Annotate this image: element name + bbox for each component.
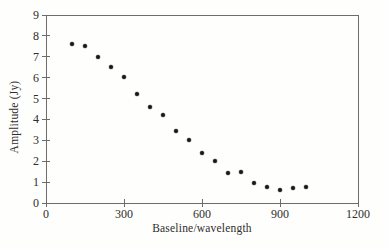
y-tick-mark [42,182,50,183]
x-tick-mark [202,199,203,207]
data-point [174,129,178,133]
visibility-amplitude-chart: Amplitude (Jy) Baseline/wavelength 01234… [0,0,388,248]
x-tick-label: 300 [104,207,144,221]
y-tick-label: 2 [15,154,39,168]
y-tick-label: 3 [15,133,39,147]
y-tick-label: 9 [15,8,39,22]
x-tick-mark [280,199,281,207]
y-tick-label: 6 [15,71,39,85]
y-tick-mark [42,161,50,162]
x-tick-mark [46,199,47,207]
y-tick-label: 8 [15,29,39,43]
y-tick-mark [42,56,50,57]
y-tick-label: 4 [15,112,39,126]
x-tick-label: 1200 [338,207,378,221]
data-point [148,105,152,109]
data-point [200,151,204,155]
x-tick-mark [358,199,359,207]
y-tick-mark [42,98,50,99]
data-point [239,170,243,174]
y-tick-label: 1 [15,175,39,189]
y-tick-mark [42,140,50,141]
y-tick-label: 7 [15,50,39,64]
plot-area [46,15,359,204]
y-tick-mark [42,15,50,16]
y-tick-label: 5 [15,92,39,106]
data-point [226,171,230,175]
data-point [122,75,126,79]
y-tick-mark [42,77,50,78]
x-tick-label: 900 [260,207,300,221]
data-point [96,55,100,59]
x-tick-label: 600 [182,207,222,221]
y-tick-mark [42,119,50,120]
y-tick-mark [42,35,50,36]
x-axis-title: Baseline/wavelength [152,222,252,234]
x-tick-label: 0 [26,207,66,221]
x-tick-mark [124,199,125,207]
